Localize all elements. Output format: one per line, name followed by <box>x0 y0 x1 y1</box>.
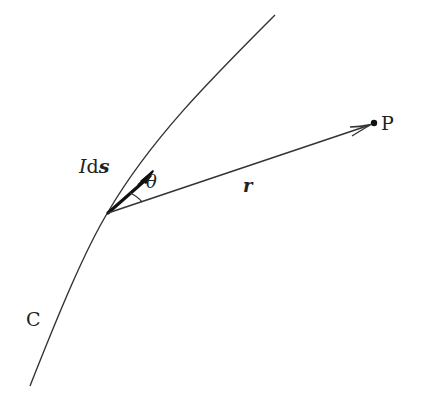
position-vector-r <box>108 125 371 214</box>
angle-arc <box>130 193 142 202</box>
curve-c-label: C <box>26 308 41 330</box>
angle-theta-label: θ <box>146 171 157 192</box>
biot-savart-diagram: P C θ r Ids <box>0 0 423 414</box>
current-label-s: s <box>98 155 110 177</box>
point-p-dot <box>371 120 377 126</box>
current-label-d: d <box>87 155 99 177</box>
point-p-label: P <box>381 112 394 134</box>
current-element-label: Ids <box>78 155 110 177</box>
vector-r-label: r <box>243 175 254 196</box>
curve-c <box>30 15 275 386</box>
